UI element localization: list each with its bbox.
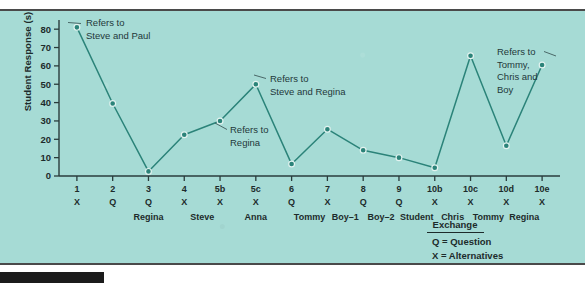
x-tick-label: 7 [325, 184, 330, 194]
data-point [503, 143, 509, 149]
x-tick-label: 9 [396, 184, 401, 194]
x-speaker-label: Regina [133, 212, 164, 222]
data-point [396, 155, 402, 161]
x-exchange-label: Q [109, 197, 116, 207]
x-exchange-label: X [432, 197, 438, 207]
x-exchange-label: X [74, 197, 80, 207]
data-point [432, 165, 438, 171]
annotation-line: Refers to [86, 17, 125, 28]
x-speaker-label: Boy–1 [332, 212, 359, 222]
x-axis-speaker-labels: ReginaSteveAnnaTommyBoy–1Boy–2StudentChr… [133, 212, 540, 222]
x-tick-label: 6 [289, 184, 294, 194]
annotation-group: Refers toSteve and PaulRefers toReginaRe… [68, 17, 556, 148]
annotation-line: Refers to [270, 73, 309, 84]
annotation-regina: Refers toRegina [215, 123, 269, 148]
x-exchange-label: X [253, 197, 259, 207]
legend-title: Exchange [433, 219, 478, 230]
y-tick-label: 0 [46, 170, 51, 181]
data-point [253, 81, 259, 87]
x-tick-label: 10b [427, 184, 443, 194]
y-tick-label: 80 [40, 24, 51, 35]
y-tick-label: 10 [40, 152, 51, 163]
x-exchange-label: Q [145, 197, 152, 207]
y-tick-label: 30 [40, 115, 51, 126]
annotation-tommy-chris-boy: Refers toTommy,Chris andBoy [497, 46, 556, 95]
annotation-line: Steve and Paul [86, 30, 150, 41]
x-tick-label: 10d [499, 184, 515, 194]
y-tick-label: 70 [40, 42, 51, 53]
data-point [181, 132, 187, 138]
x-tick-label: 5c [251, 184, 261, 194]
data-point [360, 147, 366, 153]
x-exchange-label: Q [360, 197, 367, 207]
x-tick-label: 10c [463, 184, 478, 194]
annotation-line: Refers to [497, 46, 536, 57]
x-exchange-label: X [539, 197, 545, 207]
annotation-leader-line [544, 52, 556, 57]
data-point [217, 118, 223, 124]
x-tick-label: 1 [74, 184, 79, 194]
data-point [110, 101, 116, 107]
x-speaker-label: Regina [509, 212, 540, 222]
x-exchange-label: Q [288, 197, 295, 207]
series-line [77, 27, 542, 171]
x-exchange-label: X [324, 197, 330, 207]
x-exchange-label: X [468, 197, 474, 207]
annotation-line: Regina [230, 137, 261, 148]
data-point [146, 169, 152, 175]
x-exchange-label: X [181, 197, 187, 207]
data-point [468, 53, 474, 59]
legend-entry: Q = Question [432, 236, 492, 247]
annotation-steve-regina: Refers toSteve and Regina [254, 73, 346, 97]
annotation-line: Refers to [230, 124, 269, 135]
annotation-leader-line [254, 75, 266, 79]
data-point [289, 161, 295, 167]
annotation-steve-paul: Refers toSteve and Paul [68, 17, 150, 41]
axes [59, 20, 560, 176]
data-point [324, 126, 330, 132]
figure-container: Student Response (s) 01020304050607080 1… [0, 0, 585, 284]
y-tick-label: 40 [40, 97, 51, 108]
x-tick-label: 2 [110, 184, 115, 194]
x-exchange-label: Q [395, 197, 402, 207]
data-series-student-response [74, 24, 545, 174]
x-speaker-label: Boy–2 [368, 212, 395, 222]
x-tick-label: 8 [361, 184, 366, 194]
x-tick-label: 5b [215, 184, 226, 194]
y-tick-label: 20 [40, 134, 51, 145]
x-speaker-label: Steve [190, 212, 214, 222]
annotation-line: Chris and [497, 71, 538, 82]
annotation-line: Steve and Regina [270, 86, 346, 97]
annotation-line: Tommy, [497, 59, 530, 70]
x-speaker-label: Anna [245, 212, 268, 222]
y-tick-label: 60 [40, 60, 51, 71]
y-tick-label: 50 [40, 79, 51, 90]
annotation-leader-line [68, 23, 81, 24]
legend-entries: Q = QuestionX = Alternatives [432, 236, 503, 261]
data-point [539, 62, 545, 68]
annotation-line: Boy [497, 84, 514, 95]
x-speaker-label: Student [400, 212, 434, 222]
x-exchange-label: X [217, 197, 223, 207]
x-axis-ticks [77, 176, 542, 181]
x-exchange-label: X [503, 197, 509, 207]
legend-entry: X = Alternatives [432, 250, 503, 261]
data-point [74, 24, 80, 30]
x-axis-exchange-types: XQQXXXQXQQXXXX [74, 197, 545, 207]
x-speaker-label: Tommy [473, 212, 504, 222]
legend-exchange: Exchange Q = QuestionX = Alternatives [427, 219, 503, 261]
x-tick-label: 10e [535, 184, 550, 194]
x-speaker-label: Tommy [294, 212, 325, 222]
line-chart-plot: 01020304050607080 12345b5c678910b10c10d1… [0, 0, 585, 284]
x-tick-label: 4 [182, 184, 187, 194]
x-tick-label: 3 [146, 184, 151, 194]
x-axis-labels: 12345b5c678910b10c10d10e [74, 184, 549, 194]
y-axis-ticks: 01020304050607080 [40, 24, 59, 182]
